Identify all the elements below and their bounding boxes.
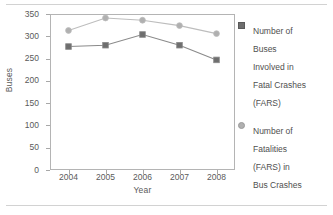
x-axis-tick-label: 2007 (170, 173, 189, 182)
x-axis-title: Year (50, 185, 235, 195)
data-point-circle-marker (177, 23, 183, 29)
y-axis-tick-mark (46, 125, 50, 126)
y-axis-tick-label: 150 (25, 99, 39, 108)
legend-item-label: Number of Fatalities (FARS) in Bus Crash… (253, 126, 302, 190)
data-point-square-marker (214, 57, 220, 63)
x-axis-tick-mark (106, 170, 107, 174)
y-axis-tick-mark (46, 103, 50, 104)
x-axis-tick-mark (143, 170, 144, 174)
data-point-circle-marker (103, 15, 109, 21)
x-axis-tick-mark (69, 170, 70, 174)
legend-circle-marker-icon (238, 122, 245, 129)
y-axis-tick-mark (46, 36, 50, 37)
data-point-circle-marker (214, 31, 220, 37)
legend-item-buses[interactable]: Number of Buses Involved in Fatal Crashe… (238, 20, 333, 110)
y-axis-tick-mark (46, 170, 50, 171)
y-axis-tick-label: 50 (30, 143, 39, 152)
y-axis-tick-mark (46, 14, 50, 15)
line-chart-figure: 050100150200250300350 Buses 200420052006… (0, 0, 333, 215)
y-axis-tick-mark (46, 81, 50, 82)
x-axis-tick-label: 2008 (207, 173, 226, 182)
legend-item-label: Number of Buses Involved in Fatal Crashe… (253, 26, 306, 108)
data-point-circle-marker (66, 28, 72, 34)
y-axis-tick-label: 300 (25, 32, 39, 41)
x-axis-tick-mark (180, 170, 181, 174)
x-axis-tick-label: 2006 (133, 173, 152, 182)
data-point-square-marker (140, 32, 146, 38)
y-axis-tick-label: 200 (25, 76, 39, 85)
legend-item-fatalities[interactable]: Number of Fatalities (FARS) in Bus Crash… (238, 120, 333, 192)
series-line (69, 35, 217, 60)
y-axis-tick-label: 250 (25, 54, 39, 63)
x-axis-tick-label: 2004 (59, 173, 78, 182)
x-axis-tick-label: 2005 (96, 173, 115, 182)
legend-square-marker-icon (238, 22, 245, 29)
y-axis-tick-mark (46, 59, 50, 60)
data-point-square-marker (103, 42, 109, 48)
y-axis-tick-label: 350 (25, 10, 39, 19)
data-point-circle-marker (140, 17, 146, 23)
series-1 (66, 32, 220, 63)
y-axis-tick-label: 0 (34, 166, 39, 175)
y-axis-tick-label: 100 (25, 121, 39, 130)
x-axis-tick-mark (217, 170, 218, 174)
plot-series-canvas (50, 14, 235, 170)
data-point-square-marker (66, 44, 72, 50)
chart-legend: Number of Buses Involved in Fatal Crashe… (238, 20, 333, 202)
y-axis-tick-mark (46, 148, 50, 149)
data-point-square-marker (177, 42, 183, 48)
y-axis-title: Buses (4, 57, 14, 103)
